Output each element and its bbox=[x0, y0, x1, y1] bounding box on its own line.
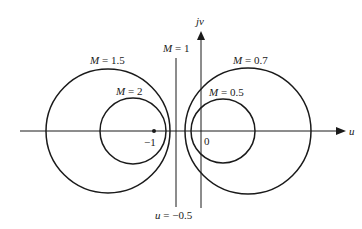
m-circles-diagram: u jv M = 1 u = −0.5 M = 1.5 M = 2 −1 M =… bbox=[0, 0, 362, 229]
minus-one-label: −1 bbox=[144, 136, 156, 148]
jv-axis-label: jv bbox=[194, 15, 204, 27]
u-axis-label: u bbox=[349, 125, 355, 137]
label-m-1-5: M = 1.5 bbox=[89, 54, 125, 66]
origin-label: 0 bbox=[204, 135, 210, 147]
label-m-0-5: M = 0.5 bbox=[208, 86, 244, 98]
label-m-2: M = 2 bbox=[115, 85, 142, 97]
m1-label: M = 1 bbox=[162, 42, 189, 54]
u-axis-arrow-icon bbox=[336, 127, 346, 135]
u-minus-half-label: u = −0.5 bbox=[155, 209, 193, 221]
jv-axis-arrow-icon bbox=[197, 31, 205, 40]
minus-one-point bbox=[152, 129, 156, 133]
label-m-0-7: M = 0.7 bbox=[232, 54, 268, 66]
